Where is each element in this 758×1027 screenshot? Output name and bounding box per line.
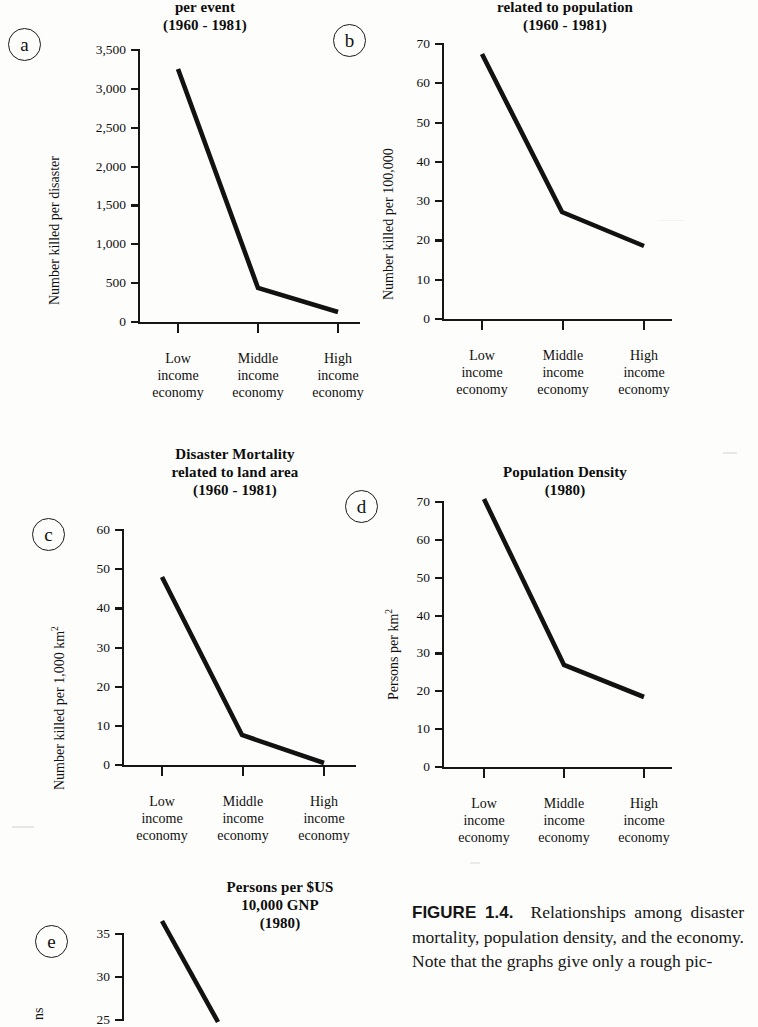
y-tick-label: 30 — [66, 641, 110, 655]
x-tick — [481, 321, 483, 330]
y-tick — [131, 88, 140, 90]
y-tick-label: 2,000 — [60, 160, 126, 174]
panel-a-tag: a — [8, 28, 41, 61]
y-tick — [435, 728, 444, 730]
panel-b-data-line — [396, 44, 696, 334]
x-category-label: Middle income economy — [198, 793, 288, 844]
x-category-label: High income economy — [293, 350, 383, 401]
y-tick — [115, 976, 124, 978]
y-tick-label: 30 — [396, 646, 430, 660]
panel-e-title: Persons per $US 10,000 GNP (1980) — [185, 878, 375, 932]
x-tick — [563, 769, 565, 778]
y-tick — [131, 282, 140, 284]
x-category-label: Low income economy — [133, 350, 223, 401]
panel-e-data-line — [66, 930, 366, 1022]
x-tick — [161, 767, 163, 776]
y-tick-label: 10 — [396, 722, 430, 736]
x-category-label: Middle income economy — [519, 795, 609, 846]
x-category-label: Low income economy — [117, 793, 207, 844]
panel-e-tag: e — [35, 925, 68, 958]
y-tick-label: 20 — [66, 680, 110, 694]
y-tick — [435, 161, 444, 163]
y-tick — [115, 764, 124, 766]
y-tick-label: 20 — [396, 684, 430, 698]
y-tick — [115, 647, 124, 649]
scan-speck — [12, 826, 34, 828]
y-tick-label: 70 — [396, 495, 430, 509]
panel-b-plot: 010203040506070Low income economyMiddle … — [396, 44, 696, 334]
y-tick — [131, 49, 140, 51]
x-category-label: Low income economy — [439, 795, 529, 846]
y-tick-label: 2,500 — [60, 121, 126, 135]
y-tick-label: 35 — [66, 927, 110, 941]
x-category-label: High income economy — [599, 795, 689, 846]
y-tick — [131, 166, 140, 168]
y-tick-label: 60 — [396, 533, 430, 547]
figure-caption: FIGURE 1.4. Relationships among disaster… — [412, 900, 744, 973]
panel-b-tag: b — [333, 24, 366, 57]
y-tick — [131, 243, 140, 245]
panel-e-y-axis-title: ns — [32, 1008, 46, 1020]
panel-c-plot: 0102030405060Low income economyMiddle in… — [66, 530, 366, 800]
y-tick-label: 40 — [396, 155, 430, 169]
panel-d-tag: d — [345, 490, 378, 523]
y-tick-label: 500 — [60, 276, 126, 290]
x-tick — [323, 767, 325, 776]
y-tick-label: 70 — [396, 37, 430, 51]
panel-a-title: Disaster Mortality per event (1960 - 198… — [90, 0, 320, 34]
panel-d-y-axis-superscript: 2 — [384, 609, 394, 614]
y-tick — [435, 82, 444, 84]
y-tick-label: 3,000 — [60, 82, 126, 96]
y-tick — [435, 501, 444, 503]
y-tick-label: 10 — [66, 719, 110, 733]
y-tick-label: 1,000 — [60, 237, 126, 251]
y-tick-label: 30 — [66, 970, 110, 984]
panel-b-title: Disaster Mortality related to population… — [440, 0, 690, 34]
y-tick-label: 40 — [396, 609, 430, 623]
panel-c-y-axis-title: Number killed per 1,000 km2 — [48, 626, 67, 790]
y-tick-label: 50 — [396, 571, 430, 585]
y-tick — [435, 690, 444, 692]
y-tick-label: 50 — [396, 116, 430, 130]
y-tick — [131, 204, 140, 206]
y-tick — [435, 200, 444, 202]
x-category-label: High income economy — [599, 347, 689, 398]
figure-caption-label: FIGURE 1.4. — [412, 903, 513, 922]
y-tick-label: 30 — [396, 194, 430, 208]
scan-artifact — [658, 220, 684, 221]
x-category-label: High income economy — [279, 793, 369, 844]
y-tick-label: 40 — [66, 601, 110, 615]
y-tick — [435, 122, 444, 124]
y-tick-label: 10 — [396, 273, 430, 287]
y-tick — [435, 652, 444, 654]
y-tick — [115, 686, 124, 688]
x-tick — [483, 769, 485, 778]
y-tick — [115, 933, 124, 935]
y-tick — [435, 766, 444, 768]
y-tick-label: 0 — [66, 758, 110, 772]
y-tick — [435, 539, 444, 541]
y-tick — [435, 239, 444, 241]
y-tick-label: 60 — [66, 523, 110, 537]
y-tick — [435, 43, 444, 45]
y-tick-label: 25 — [66, 1013, 110, 1027]
x-category-label: Middle income economy — [213, 350, 303, 401]
panel-a-plot: 05001,0001,5002,0002,5003,0003,500Low in… — [60, 50, 360, 335]
y-tick-label: 0 — [396, 760, 430, 774]
x-tick — [257, 324, 259, 333]
y-tick-label: 20 — [396, 233, 430, 247]
x-tick — [337, 324, 339, 333]
x-tick — [177, 324, 179, 333]
y-tick — [435, 577, 444, 579]
y-tick-label: 3,500 — [60, 43, 126, 57]
y-tick — [131, 321, 140, 323]
y-tick — [435, 318, 444, 320]
panel-c-title: Disaster Mortality related to land area … — [110, 445, 360, 499]
y-tick — [115, 529, 124, 531]
panel-b-y-axis-title: Number killed per 100,000 — [382, 148, 396, 300]
scan-speck — [470, 862, 480, 864]
x-tick — [562, 321, 564, 330]
y-tick-label: 0 — [60, 315, 126, 329]
x-tick — [643, 769, 645, 778]
scan-speck — [723, 452, 737, 454]
